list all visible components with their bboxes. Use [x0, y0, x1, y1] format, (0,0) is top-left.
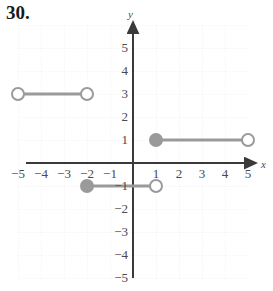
- x-tick-label-5: 5: [242, 166, 254, 182]
- y-tick-label-5: 5: [114, 40, 128, 56]
- y-tick-label-1: 1: [114, 132, 128, 148]
- y-tick-label--5: −5: [110, 270, 128, 286]
- x-tick-label--3: −3: [56, 166, 72, 182]
- open-endpoint-right-1: [81, 88, 93, 100]
- open-endpoint-left-1: [12, 88, 24, 100]
- y-tick-label--1: −1: [110, 178, 128, 194]
- open-endpoint-right-3: [242, 134, 254, 146]
- closed-endpoint-left-3: [150, 134, 162, 146]
- graph-plot: [0, 0, 273, 291]
- x-axis-name: x: [261, 158, 266, 170]
- y-tick-label--3: −3: [110, 224, 128, 240]
- y-tick-label-2: 2: [114, 109, 128, 125]
- x-tick-label-4: 4: [219, 166, 231, 182]
- y-tick-label-4: 4: [114, 63, 128, 79]
- y-axis-name: y: [128, 8, 133, 20]
- x-tick-label-1: 1: [150, 166, 162, 182]
- x-tick-label--4: −4: [33, 166, 49, 182]
- figure-container: 30.: [0, 0, 273, 291]
- y-tick-label--2: −2: [110, 201, 128, 217]
- x-tick-label-2: 2: [173, 166, 185, 182]
- y-tick-label--4: −4: [110, 247, 128, 263]
- x-tick-label-3: 3: [196, 166, 208, 182]
- y-tick-label-3: 3: [114, 86, 128, 102]
- x-tick-label--2: −2: [79, 166, 95, 182]
- x-tick-label--5: −5: [10, 166, 26, 182]
